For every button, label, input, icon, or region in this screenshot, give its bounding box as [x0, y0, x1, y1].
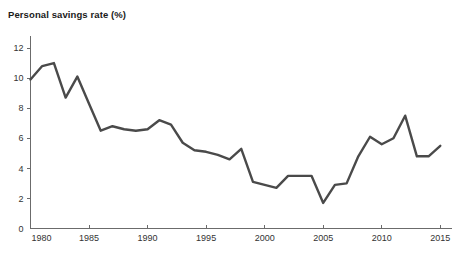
x-axis-ticks: 19801985199019952000200520102015 — [31, 225, 450, 243]
x-tick-label: 1980 — [31, 233, 51, 243]
y-tick-label: 0 — [18, 224, 23, 234]
y-tick-label: 2 — [18, 194, 23, 204]
x-tick-label: 2005 — [313, 233, 333, 243]
chart-plot-area: 024681012 198019851990199520002005201020… — [0, 0, 468, 258]
y-tick-label: 8 — [18, 103, 23, 113]
chart-container: Personal savings rate (%) 024681012 1980… — [0, 0, 468, 258]
x-tick-label: 2015 — [430, 233, 450, 243]
x-tick-label: 1985 — [79, 233, 99, 243]
y-tick-label: 10 — [13, 73, 23, 83]
x-tick-label: 1995 — [196, 233, 216, 243]
y-axis-ticks: 024681012 — [13, 43, 30, 234]
x-tick-label: 1990 — [138, 233, 158, 243]
data-line-personal-savings-rate — [31, 63, 441, 203]
y-tick-label: 12 — [13, 43, 23, 53]
y-tick-label: 4 — [18, 164, 23, 174]
y-tick-label: 6 — [18, 133, 23, 143]
x-tick-label: 2000 — [255, 233, 275, 243]
x-tick-label: 2010 — [372, 233, 392, 243]
